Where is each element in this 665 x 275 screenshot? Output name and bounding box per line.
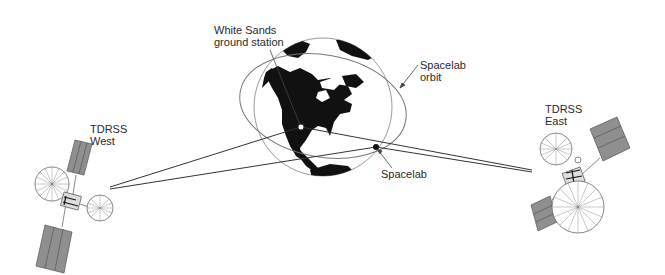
label-line: TDRSS — [545, 103, 582, 115]
satellite-body — [60, 192, 81, 210]
label-spacelab-orbit: Spacelab orbit — [420, 59, 466, 83]
solar-panel-upper — [67, 140, 92, 175]
label-line: West — [90, 135, 127, 147]
label-line: East — [545, 115, 582, 127]
tdrss-west-satellite — [35, 140, 113, 273]
label-white-sands-ground-station: White Sands ground station — [214, 24, 284, 48]
link-west-groundstation — [110, 127, 301, 187]
label-line: Spacelab — [381, 168, 427, 180]
tdrss-east-satellite — [531, 117, 630, 233]
label-line: TDRSS — [90, 123, 127, 135]
label-line: Spacelab — [420, 59, 466, 71]
label-line: ground station — [214, 36, 284, 48]
label-line: orbit — [420, 71, 466, 83]
solar-panel-lower — [36, 225, 72, 273]
label-tdrss-east: TDRSS East — [545, 103, 582, 127]
label-tdrss-west: TDRSS West — [90, 123, 127, 147]
label-spacelab: Spacelab — [381, 168, 427, 180]
earth-globe — [254, 38, 392, 182]
label-line: White Sands — [214, 24, 284, 36]
ground-station-marker — [298, 124, 304, 130]
solar-panel-upper — [590, 117, 630, 161]
